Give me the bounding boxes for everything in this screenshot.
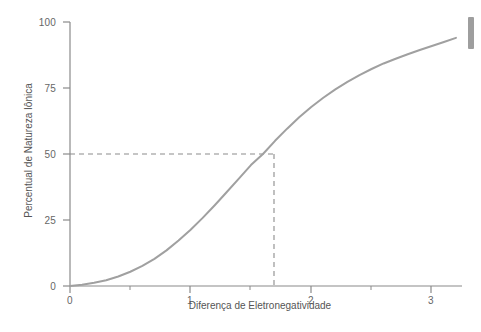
x-axis-label: Diferença de Eletronegatividade	[120, 300, 400, 311]
y-axis-label: Percentual de Natureza Iônica	[23, 61, 34, 241]
y-axis-ticks	[63, 22, 70, 286]
x-tick-label-0: 0	[58, 295, 82, 306]
y-tick-label-100: 100	[22, 17, 56, 28]
x-tick-label-3: 3	[419, 295, 443, 306]
y-tick-label-0: 0	[22, 281, 56, 292]
vertical-scrollbar-thumb[interactable]	[468, 17, 474, 49]
chart-figure: 0 25 50 75 100 0 1 2 3 Diferença de Elet…	[0, 0, 481, 332]
line-chart-canvas	[0, 0, 481, 332]
ionic-character-curve	[70, 38, 456, 286]
